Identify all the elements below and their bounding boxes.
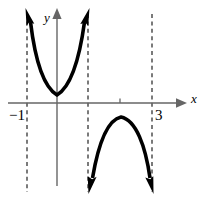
y-axis-arrowhead bbox=[52, 8, 61, 19]
x-axis-arrowhead bbox=[176, 98, 187, 108]
curve-downward-branch bbox=[93, 117, 151, 178]
curve-arrowhead-lower-left bbox=[88, 176, 97, 194]
x-tick-label-3: 3 bbox=[155, 107, 163, 123]
y-axis-label: y bbox=[42, 10, 50, 25]
x-tick-label-minus-1: −1 bbox=[9, 107, 25, 123]
math-graph-figure: −1 3 x y bbox=[0, 0, 207, 206]
curve-arrowhead-lower-right bbox=[145, 176, 153, 194]
x-axis-label: x bbox=[190, 91, 197, 106]
graph-canvas: −1 3 x y bbox=[0, 0, 207, 206]
